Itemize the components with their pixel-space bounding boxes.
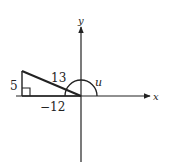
right-angle-marker bbox=[22, 88, 30, 96]
y-axis-label: y bbox=[77, 15, 84, 26]
adjacent-side-label: −12 bbox=[40, 100, 65, 114]
hypotenuse-label: 13 bbox=[51, 71, 66, 85]
opposite-side-label: 5 bbox=[10, 79, 18, 93]
angle-label: u bbox=[95, 76, 102, 89]
x-axis-label: x bbox=[153, 91, 159, 102]
diagram-canvas: x y 5 13 −12 u bbox=[0, 0, 169, 165]
